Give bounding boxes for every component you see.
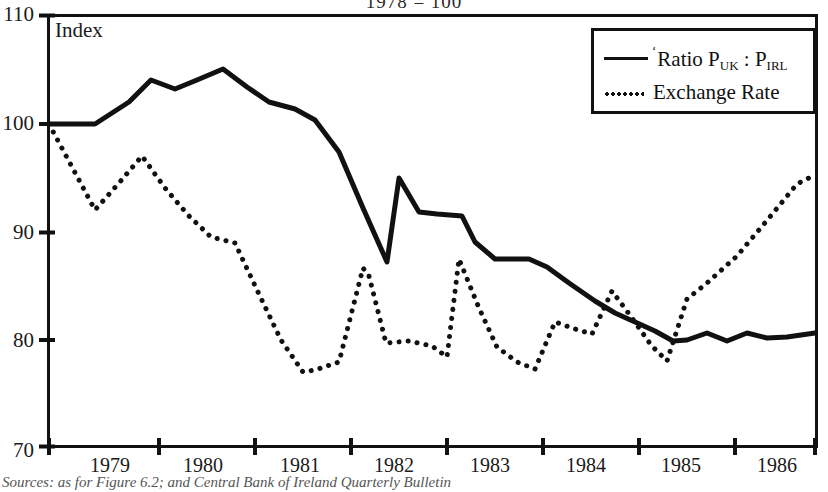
- legend-label-ratio-mid: : P: [739, 47, 767, 71]
- figure-container: 1978 = 100 110 100 90 80 70 1979 1980 19…: [0, 0, 828, 492]
- legend-label-exchange-rate: Exchange Rate: [653, 82, 780, 103]
- legend-label-ratio-sub2: IRL: [767, 58, 788, 73]
- legend-label-ratio-sub1: UK: [720, 58, 739, 73]
- legend-entry-ratio: ‘Ratio PUK : PIRL: [602, 43, 788, 73]
- source-note: Sources: as for Figure 6.2; and Central …: [2, 474, 828, 492]
- xtick-label-1984: 1984: [566, 455, 606, 475]
- xtick-label-1983: 1983: [470, 455, 510, 475]
- legend: ‘Ratio PUK : PIRL Exchange Rate: [591, 28, 816, 114]
- xtick-label-1980: 1980: [183, 455, 223, 475]
- ytick-label-110: 110: [3, 4, 34, 25]
- legend-label-ratio-prefix: Ratio P: [657, 47, 719, 71]
- ytick-label-100: 100: [3, 113, 35, 134]
- legend-entry-exchange-rate: Exchange Rate: [602, 77, 780, 107]
- xtick-label-1979: 1979: [90, 455, 130, 475]
- xtick-label-1981: 1981: [280, 455, 320, 475]
- xtick-label-1982: 1982: [374, 455, 414, 475]
- ytick-label-70: 70: [13, 440, 34, 461]
- ytick-label-90: 90: [13, 222, 34, 243]
- legend-solid-line-icon: [602, 51, 648, 65]
- legend-label-ratio: ‘Ratio PUK : PIRL: [653, 47, 788, 70]
- ytick-label-80: 80: [13, 330, 34, 351]
- xtick-label-1986: 1986: [757, 455, 797, 475]
- legend-dotted-line-icon: [602, 85, 648, 99]
- xtick-label-1985: 1985: [661, 455, 701, 475]
- chart-title: 1978 = 100: [0, 0, 828, 13]
